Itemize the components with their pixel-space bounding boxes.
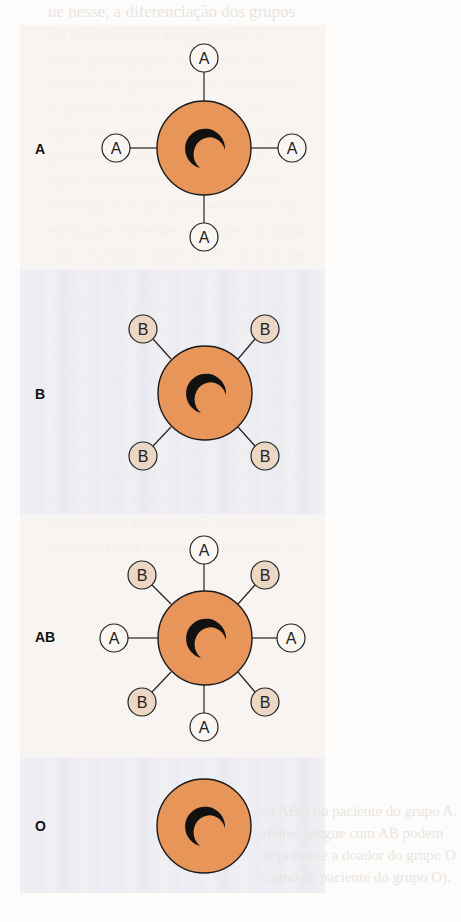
antigen-a-icon: A — [190, 536, 218, 564]
svg-text:A: A — [111, 140, 122, 157]
svg-text:A: A — [199, 542, 210, 559]
svg-text:B: B — [260, 448, 271, 465]
svg-text:A: A — [109, 630, 120, 647]
svg-text:B: B — [260, 567, 271, 584]
red-cell-group-ab: A B A B A B A B — [100, 536, 305, 741]
svg-text:A: A — [286, 630, 297, 647]
red-cell-group-b: B B B B — [129, 315, 279, 470]
antigen-a-icon: A — [190, 223, 218, 251]
svg-text:B: B — [137, 567, 148, 584]
svg-text:B: B — [137, 694, 148, 711]
antigen-a-icon: A — [102, 134, 130, 162]
antigen-b-icon: B — [251, 315, 279, 343]
svg-text:A: A — [287, 140, 298, 157]
antigen-a-icon: A — [100, 624, 128, 652]
antigen-a-icon: A — [190, 713, 218, 741]
antigen-b-icon: B — [129, 315, 157, 343]
svg-text:B: B — [138, 321, 149, 338]
antigen-a-icon: A — [278, 134, 306, 162]
svg-text:B: B — [138, 448, 149, 465]
antigen-b-icon: B — [129, 442, 157, 470]
antigen-a-icon: A — [277, 624, 305, 652]
svg-text:A: A — [199, 719, 210, 736]
antigen-b-icon: B — [251, 442, 279, 470]
svg-text:B: B — [260, 321, 271, 338]
svg-text:A: A — [199, 229, 210, 246]
red-cell-group-a: A A A A — [102, 44, 306, 251]
antigen-b-icon: B — [251, 561, 279, 589]
antigen-b-icon: B — [128, 561, 156, 589]
antigen-b-icon: B — [251, 688, 279, 716]
svg-text:A: A — [199, 50, 210, 67]
red-cell-group-o — [157, 779, 251, 873]
antigen-a-icon: A — [190, 44, 218, 72]
svg-text:B: B — [260, 694, 271, 711]
antigen-b-icon: B — [128, 688, 156, 716]
